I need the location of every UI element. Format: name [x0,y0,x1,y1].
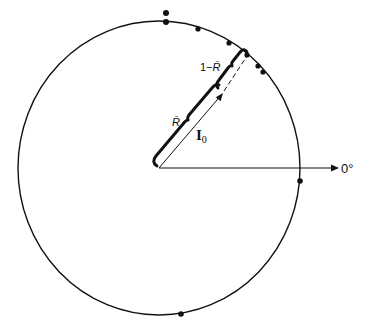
data-point [163,10,169,16]
dashed-extension [224,56,247,91]
complement-prefix: 1− [200,61,213,73]
brace-complement-length [217,50,247,88]
data-point [226,40,231,45]
data-point [195,26,200,31]
data-point [163,19,169,25]
zero-degree-label: 0° [341,161,353,176]
data-point [255,63,260,68]
mean-vector-subscript: 0 [202,134,207,145]
complement-symbol: R̄ [213,61,221,73]
arrowhead-icon [331,165,339,172]
brace-resultant-length [154,84,219,166]
data-points [163,10,303,317]
data-point [244,52,249,57]
reference-axis [159,165,339,172]
circular-statistics-diagram: 0° R̄ 1−R̄ I0 [0,0,365,332]
mean-vector-label: I0 [196,127,207,145]
data-point [260,69,265,74]
data-point [178,311,184,317]
mean-vector-arrow [159,93,223,168]
data-point [297,178,303,184]
resultant-length-label: R̄ [172,116,180,128]
complement-length-label: 1−R̄ [200,61,221,73]
